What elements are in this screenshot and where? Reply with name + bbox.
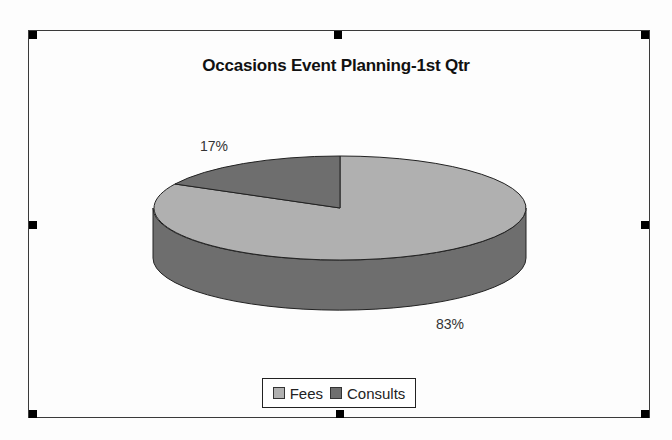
pie-plot[interactable]: [0, 0, 672, 440]
legend-label-fees: Fees: [290, 385, 323, 402]
legend-swatch-consults: [330, 387, 342, 399]
data-label-fees[interactable]: 83%: [436, 316, 464, 332]
legend-swatch-fees: [273, 387, 285, 399]
data-label-consults[interactable]: 17%: [200, 138, 228, 154]
legend-label-consults: Consults: [347, 385, 405, 402]
chart-legend[interactable]: Fees Consults: [262, 378, 416, 408]
